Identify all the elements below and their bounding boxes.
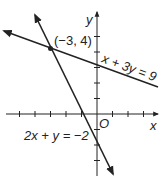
intersection-point <box>48 46 53 51</box>
origin-label: O <box>99 116 109 131</box>
intersection-label: (−3, 4) <box>54 33 92 48</box>
line-label-x-plus-3y: x + 3y = 9 <box>99 50 159 84</box>
y-axis-label: y <box>85 12 94 27</box>
line-label-2x-plus-y: 2x + y = −2 <box>23 128 89 143</box>
graph: x y O (−3, 4) x + 3y = 9 2x + y = −2 <box>0 0 164 176</box>
x-axis-label: x <box>149 118 157 133</box>
